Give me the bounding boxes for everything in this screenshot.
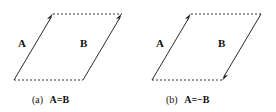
panel-b-label-a: A — [156, 37, 164, 49]
panel-a-group: A B (a) A=B — [14, 13, 122, 106]
panel-a-label-b: B — [80, 37, 88, 49]
vector-diagram-canvas: A B (a) A=B A B — [0, 0, 276, 112]
panel-a-vector-a-arrowhead — [47, 13, 53, 22]
panel-b-caption-equation: A=−B — [184, 94, 210, 105]
panel-b-caption-tag: (b) — [166, 94, 178, 106]
panel-b-caption: (b) A=−B — [166, 94, 210, 106]
panel-b-group: A B (b) A=−B — [152, 13, 261, 106]
panel-b-vector-a-arrowhead — [185, 13, 191, 22]
panel-a-caption: (a) A=B — [32, 94, 70, 106]
panel-a-vector-b-arrowhead — [116, 13, 122, 22]
panel-b-label-b: B — [218, 37, 226, 49]
panel-a-vector-b-shaft — [83, 17, 121, 81]
panel-b-vector-b-shaft — [223, 14, 261, 78]
panel-a-label-a: A — [18, 37, 26, 49]
panel-a-caption-equation: A=B — [50, 94, 70, 105]
panel-b-vector-b-arrowhead — [222, 72, 228, 81]
panel-a-caption-tag: (a) — [32, 94, 43, 106]
figure-root: A B (a) A=B A B — [0, 0, 276, 112]
